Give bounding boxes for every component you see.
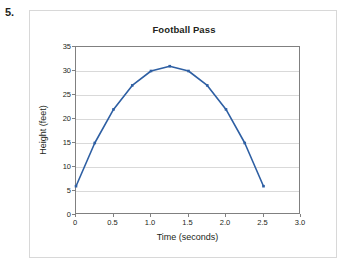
x-tick-mark [113, 214, 114, 217]
series-line [76, 66, 264, 186]
worksheet-page: 5. Football Pass 05101520253035 00.51.01… [0, 0, 349, 273]
x-axis-label: Time (seconds) [75, 232, 300, 242]
y-axis-label: Height (feet) [38, 46, 50, 214]
y-tick-label: 35 [63, 42, 71, 51]
data-point-marker [262, 185, 265, 188]
data-point-marker [206, 84, 209, 87]
x-tick-mark [225, 214, 226, 217]
data-point-marker [75, 185, 78, 188]
data-point-marker [93, 142, 96, 145]
x-tick-label: 0.5 [107, 218, 117, 227]
y-tick-label: 0 [67, 210, 71, 219]
y-tick-mark [72, 70, 75, 71]
plot-wrapper: 05101520253035 00.51.01.52.02.53.0 [75, 46, 300, 214]
line-series [76, 47, 301, 215]
data-point-marker [225, 108, 228, 111]
x-tick-label: 1.0 [145, 218, 155, 227]
question-number: 5. [5, 6, 14, 18]
x-tick-label: 2.0 [220, 218, 230, 227]
y-tick-mark [72, 118, 75, 119]
data-point-marker [112, 108, 115, 111]
data-point-marker [187, 70, 190, 73]
plot-area [75, 46, 300, 214]
y-tick-mark [72, 142, 75, 143]
x-tick-label: 2.5 [257, 218, 267, 227]
chart-title: Football Pass [30, 24, 338, 35]
x-tick-label: 3.0 [295, 218, 305, 227]
data-point-marker [243, 142, 246, 145]
y-tick-label: 30 [63, 66, 71, 75]
x-tick-mark [300, 214, 301, 217]
data-point-marker [150, 70, 153, 73]
y-tick-label: 5 [67, 186, 71, 195]
data-point-marker [131, 84, 134, 87]
x-tick-mark [75, 214, 76, 217]
x-tick-mark [263, 214, 264, 217]
y-tick-mark [72, 190, 75, 191]
x-tick-mark [188, 214, 189, 217]
y-tick-mark [72, 46, 75, 47]
x-tick-mark [150, 214, 151, 217]
x-tick-label: 0 [73, 218, 77, 227]
y-tick-mark [72, 94, 75, 95]
data-point-marker [168, 65, 171, 68]
y-tick-label: 10 [63, 162, 71, 171]
y-tick-mark [72, 166, 75, 167]
y-tick-label: 15 [63, 138, 71, 147]
chart-card: Football Pass 05101520253035 00.51.01.52… [29, 10, 337, 258]
x-tick-label: 1.5 [182, 218, 192, 227]
y-tick-label: 20 [63, 114, 71, 123]
y-tick-label: 25 [63, 90, 71, 99]
